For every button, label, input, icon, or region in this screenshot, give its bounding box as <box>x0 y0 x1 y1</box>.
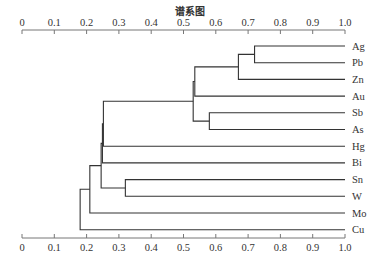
dendrogram-link <box>195 67 345 96</box>
dendrogram-link <box>193 81 209 121</box>
leaf-label: Zn <box>352 74 364 85</box>
top-axis-tick-label: 0.1 <box>48 17 61 28</box>
top-axis-tick-label: 0.2 <box>80 17 93 28</box>
leaf-label: Sb <box>352 107 363 118</box>
bottom-axis-tick-label: 0.8 <box>274 242 287 253</box>
top-axis-tick-label: 0.8 <box>274 17 287 28</box>
dendrogram-chart: 00.10.20.30.40.50.60.70.80.91.000.10.20.… <box>0 0 379 260</box>
dendrogram-link <box>101 143 125 188</box>
bottom-axis-tick-label: 0.1 <box>48 242 61 253</box>
bottom-axis-tick-label: 0.4 <box>145 242 159 253</box>
bottom-axis-tick-label: 1.0 <box>338 242 351 253</box>
leaf-label: Mo <box>352 208 367 219</box>
top-axis-tick-label: 0.5 <box>177 17 190 28</box>
bottom-axis-tick-label: 0.9 <box>306 242 319 253</box>
bottom-axis-tick-label: 0 <box>19 242 24 253</box>
top-axis-tick-label: 0.7 <box>242 17 255 28</box>
dendrogram-link <box>80 189 345 229</box>
top-axis-tick-label: 0.9 <box>306 17 319 28</box>
leaf-label: Au <box>352 91 366 102</box>
dendrogram-link <box>90 166 345 213</box>
leaf-label: Bi <box>352 157 362 168</box>
top-axis-tick-label: 1.0 <box>338 17 351 28</box>
leaf-label: W <box>352 191 362 202</box>
dendrogram-link <box>125 180 345 197</box>
dendrogram-link <box>103 101 345 146</box>
bottom-axis-tick-label: 0.7 <box>242 242 255 253</box>
leaf-label: Ag <box>352 41 366 52</box>
leaf-label: Cu <box>352 224 365 235</box>
bottom-axis-tick-label: 0.3 <box>112 242 125 253</box>
leaf-label: Pb <box>352 57 363 68</box>
leaf-label: Hg <box>352 141 366 152</box>
bottom-axis-tick-label: 0.2 <box>80 242 93 253</box>
top-axis-tick-label: 0 <box>19 17 24 28</box>
bottom-axis-tick-label: 0.6 <box>209 242 222 253</box>
top-axis-tick-label: 0.4 <box>145 17 159 28</box>
dendrogram-link <box>209 113 345 130</box>
leaf-label: As <box>352 124 364 135</box>
top-axis-tick-label: 0.3 <box>112 17 125 28</box>
bottom-axis-tick-label: 0.5 <box>177 242 190 253</box>
top-axis-tick-label: 0.6 <box>209 17 222 28</box>
dendrogram-link <box>255 46 345 63</box>
leaf-label: Sn <box>352 174 364 185</box>
